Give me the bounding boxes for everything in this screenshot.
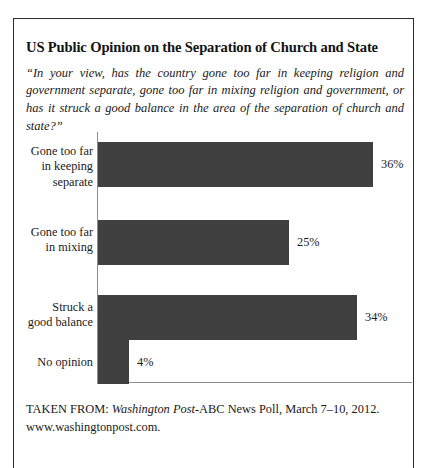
bar-category-label: Gone too far in mixing	[0, 225, 93, 256]
bar-category-label: Gone too far in keeping separate	[0, 144, 93, 190]
bar-rect	[98, 220, 289, 265]
chart-title: US Public Opinion on the Separation of C…	[26, 39, 406, 55]
bar-rect	[98, 142, 373, 187]
source-note: TAKEN FROM: Washington Post-ABC News Pol…	[26, 401, 406, 437]
source-detail: -ABC News Poll, March 7–10, 2012.	[195, 402, 379, 416]
survey-question-text: “In your view, has the country gone too …	[26, 65, 404, 136]
bar-value-label: 4%	[137, 355, 153, 370]
bar-rect	[98, 340, 129, 384]
source-url: www.washingtonpost.com.	[26, 420, 160, 434]
bar-category-label: Struck a good balance	[0, 300, 93, 331]
source-publication: Washington Post	[112, 402, 195, 416]
bar-rect	[98, 295, 357, 340]
bar-value-label: 25%	[297, 235, 320, 250]
bar-chart-plot-area: Gone too far in keeping separate 36% Gon…	[14, 132, 415, 384]
bar-category-label: No opinion	[0, 355, 93, 370]
x-axis-line	[97, 382, 412, 383]
bar-value-label: 36%	[381, 157, 404, 172]
source-prefix: TAKEN FROM:	[26, 402, 112, 416]
figure-container: US Public Opinion on the Separation of C…	[13, 18, 414, 468]
bar-value-label: 34%	[365, 310, 388, 325]
clipped-top-text	[0, 0, 428, 6]
